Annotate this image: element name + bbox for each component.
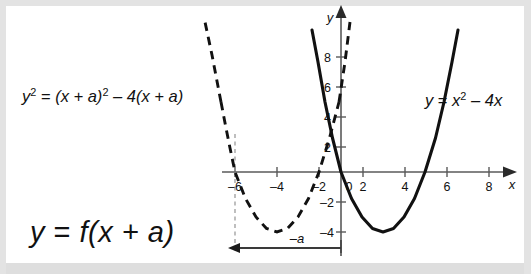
shift-arrow-label: –a — [289, 231, 304, 246]
equation-label-transformed: y2 = (x + a)2 – 4(x + a) — [22, 88, 183, 105]
eq-original-rhs-exponent: 2 — [460, 90, 466, 102]
eq-transformed-lhs-exponent: 2 — [30, 86, 36, 98]
caption-lhs: y — [30, 216, 45, 248]
eq-original-rhs-rest: – 4x — [471, 91, 502, 109]
eq-transformed-equals: = — [41, 87, 51, 105]
caption-rhs: f(x + a) — [80, 216, 175, 248]
y-tick-label-6: 6 — [324, 81, 331, 95]
x-tick-label-6: 6 — [444, 180, 451, 194]
eq-original-equals: = — [438, 91, 448, 109]
y-tick-label-8: 8 — [324, 51, 331, 65]
eq-original-lhs: y — [425, 91, 433, 109]
y-axis-arrowhead — [336, 5, 347, 18]
x-tick-label--4: –4 — [270, 180, 284, 194]
curve-translated-dashed-left-tail — [205, 22, 221, 102]
figure-caption: y = f(x + a) — [30, 218, 175, 247]
x-tick-label-4: 4 — [402, 180, 409, 194]
x-axis-arrowhead — [503, 167, 517, 178]
eq-transformed-lhs-base: y — [22, 87, 30, 105]
caption-equals: = — [54, 216, 71, 248]
x-tick-label-8: 8 — [486, 180, 493, 194]
equation-label-original: y = x2 – 4x — [425, 92, 502, 109]
curve-translated-dashed — [221, 102, 339, 232]
x-tick-label-2: 2 — [360, 180, 367, 194]
eq-transformed-rhs-rest: – 4(x + a) — [113, 87, 183, 105]
y-axis-name-label: y — [326, 10, 335, 25]
figure-container: –6 –4 –2 0 2 4 6 8 8 6 4 2 –2 –4 x y – — [0, 0, 531, 274]
eq-transformed-rhs-group: (x + a) — [55, 87, 102, 105]
eq-transformed-rhs-exponent: 2 — [102, 86, 108, 98]
shift-arrow-head — [228, 243, 240, 253]
x-axis-name-label: x — [508, 177, 516, 192]
axes-group — [222, 5, 517, 253]
y-tick-label--2: –2 — [320, 196, 334, 210]
y-tick-label--4: –4 — [320, 226, 334, 240]
x-tick-labels-group: –6 –4 –2 0 2 4 6 8 — [228, 180, 492, 194]
